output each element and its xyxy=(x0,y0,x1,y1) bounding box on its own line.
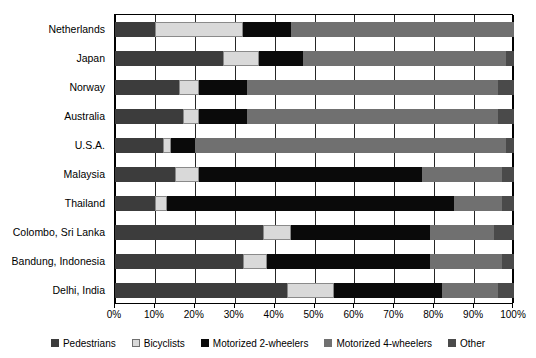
category-label: Norway xyxy=(69,80,105,94)
bar-segment-other xyxy=(498,80,514,95)
plot-area xyxy=(114,14,513,304)
bar-segment-pedestrians xyxy=(115,22,155,37)
bar-segment-pedestrians xyxy=(115,225,263,240)
bar-segment-motorized-4-wheelers xyxy=(454,196,502,211)
bar-row xyxy=(115,102,512,131)
bar-segment-pedestrians xyxy=(115,80,179,95)
bar-segment-motorized-2-wheelers xyxy=(167,196,454,211)
x-axis-tick-label: 0% xyxy=(107,308,121,321)
bar-segment-motorized-2-wheelers xyxy=(199,109,247,124)
legend-label: Motorized 2-wheelers xyxy=(213,338,309,349)
bar-segment-motorized-4-wheelers xyxy=(442,283,498,298)
y-axis-category-labels: NetherlandsJapanNorwayAustraliaU.S.A.Mal… xyxy=(0,14,110,304)
x-axis-tick-label: 80% xyxy=(423,308,443,321)
legend-item[interactable]: Motorized 2-wheelers xyxy=(201,338,309,349)
bar-row xyxy=(115,73,512,102)
bar-segment-motorized-2-wheelers xyxy=(243,22,291,37)
bar-segment-motorized-2-wheelers xyxy=(259,51,303,66)
legend-item[interactable]: Bicyclists xyxy=(132,338,185,349)
category-label: Australia xyxy=(64,109,105,123)
stacked-bar-chart: NetherlandsJapanNorwayAustraliaU.S.A.Mal… xyxy=(0,0,536,358)
stacked-bar xyxy=(115,109,512,124)
bar-segment-motorized-4-wheelers xyxy=(195,138,506,153)
stacked-bar xyxy=(115,138,512,153)
bar-segment-bicyclists xyxy=(155,22,243,37)
category-label: Japan xyxy=(76,51,105,65)
x-axis-tick-label: 40% xyxy=(264,308,284,321)
bar-segment-other xyxy=(498,283,514,298)
legend-label: Pedestrians xyxy=(63,338,116,349)
x-axis-tick-label: 20% xyxy=(184,308,204,321)
bar-segment-bicyclists xyxy=(243,254,267,269)
stacked-bar xyxy=(115,283,512,298)
legend-swatch-icon xyxy=(448,339,456,347)
category-label: Malaysia xyxy=(64,167,105,181)
legend-label: Other xyxy=(460,338,485,349)
bar-segment-motorized-4-wheelers xyxy=(291,22,514,37)
x-axis-labels: 0%10%20%30%40%50%60%70%80%90%100% xyxy=(114,308,513,322)
bar-segment-other xyxy=(506,51,514,66)
x-axis-tick-label: 10% xyxy=(144,308,164,321)
legend-label: Bicyclists xyxy=(144,338,185,349)
bar-segment-motorized-2-wheelers xyxy=(291,225,431,240)
bar-segment-motorized-2-wheelers xyxy=(267,254,431,269)
bar-segment-other xyxy=(502,254,514,269)
bar-segment-pedestrians xyxy=(115,167,175,182)
bar-segment-motorized-2-wheelers xyxy=(199,167,422,182)
stacked-bar xyxy=(115,254,512,269)
bar-segment-pedestrians xyxy=(115,254,243,269)
bar-segment-pedestrians xyxy=(115,283,287,298)
category-label: U.S.A. xyxy=(75,138,105,152)
chart-legend: PedestriansBicyclistsMotorized 2-wheeler… xyxy=(0,334,536,352)
category-label: Thailand xyxy=(65,196,105,210)
bar-row xyxy=(115,247,512,276)
bar-row xyxy=(115,189,512,218)
bar-segment-motorized-4-wheelers xyxy=(430,225,494,240)
legend-swatch-icon xyxy=(51,339,59,347)
bar-segment-bicyclists xyxy=(183,109,199,124)
bar-segment-pedestrians xyxy=(115,138,163,153)
bar-segment-motorized-2-wheelers xyxy=(199,80,247,95)
bar-row xyxy=(115,15,512,44)
bar-row xyxy=(115,276,512,305)
bar-segment-bicyclists xyxy=(179,80,199,95)
bar-segment-bicyclists xyxy=(155,196,167,211)
bar-segment-other xyxy=(502,196,514,211)
x-axis-tick-label: 70% xyxy=(383,308,403,321)
bar-segment-pedestrians xyxy=(115,51,223,66)
x-axis-tick-label: 30% xyxy=(224,308,244,321)
bar-segment-motorized-2-wheelers xyxy=(334,283,442,298)
stacked-bar xyxy=(115,196,512,211)
plot-inner xyxy=(115,15,512,303)
bar-row xyxy=(115,160,512,189)
x-axis-tick-label: 60% xyxy=(343,308,363,321)
legend-swatch-icon xyxy=(132,339,140,347)
bar-segment-other xyxy=(494,225,514,240)
legend-item[interactable]: Pedestrians xyxy=(51,338,116,349)
bar-segment-bicyclists xyxy=(287,283,335,298)
bar-segment-pedestrians xyxy=(115,109,183,124)
bar-segment-bicyclists xyxy=(175,167,199,182)
category-label: Netherlands xyxy=(48,22,105,36)
category-label: Colombo, Sri Lanka xyxy=(13,225,105,239)
bar-segment-motorized-4-wheelers xyxy=(422,167,502,182)
bar-segment-motorized-4-wheelers xyxy=(247,109,498,124)
bar-segment-bicyclists xyxy=(163,138,171,153)
bar-segment-motorized-2-wheelers xyxy=(171,138,195,153)
bar-segment-motorized-4-wheelers xyxy=(430,254,502,269)
bar-segment-bicyclists xyxy=(223,51,259,66)
bar-segment-other xyxy=(506,138,514,153)
category-label: Delhi, India xyxy=(52,283,105,297)
legend-item[interactable]: Other xyxy=(448,338,485,349)
category-label: Bandung, Indonesia xyxy=(12,254,105,268)
bar-row xyxy=(115,44,512,73)
stacked-bar xyxy=(115,22,512,37)
bar-segment-pedestrians xyxy=(115,196,155,211)
bar-row xyxy=(115,218,512,247)
stacked-bar xyxy=(115,167,512,182)
bar-segment-motorized-4-wheelers xyxy=(303,51,506,66)
bar-segment-bicyclists xyxy=(263,225,291,240)
legend-item[interactable]: Motorized 4-wheelers xyxy=(324,338,432,349)
stacked-bar xyxy=(115,225,512,240)
x-axis-tick-label: 50% xyxy=(303,308,323,321)
